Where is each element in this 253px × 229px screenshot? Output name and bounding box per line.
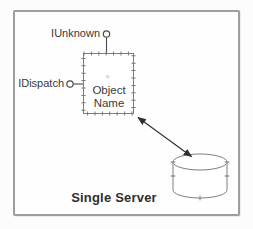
- object-name-line2: Name: [84, 97, 134, 110]
- diagram-frame: [13, 10, 240, 216]
- object-anchor-mark: ×: [103, 73, 112, 81]
- object-name-line1: Object: [84, 84, 134, 97]
- idispatch-label: IDispatch: [9, 77, 64, 90]
- figure-single-server: IUnknown IDispatch × Object Name Single …: [0, 0, 253, 229]
- iunknown-label: IUnknown: [30, 27, 100, 40]
- object-name-label: Object Name: [84, 84, 134, 110]
- figure-caption: Single Server: [44, 190, 184, 205]
